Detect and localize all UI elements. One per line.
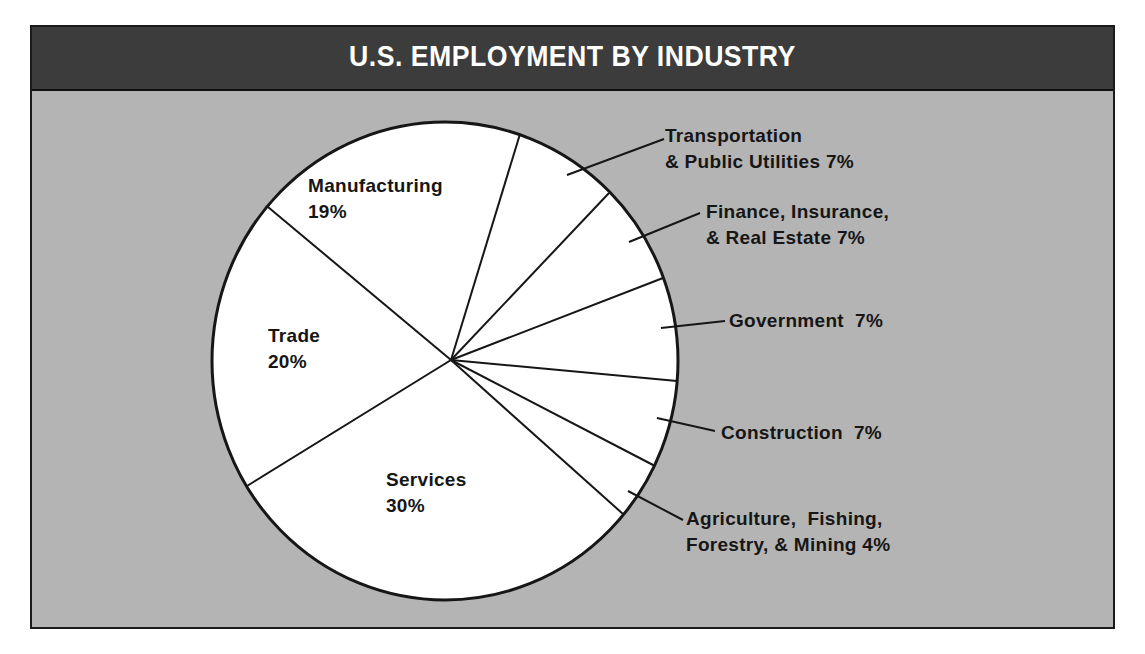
label-government-text: Government 7% <box>729 308 883 334</box>
label-services-value: 30% <box>386 493 467 519</box>
label-manufacturing-value: 19% <box>308 199 443 225</box>
label-agriculture-value: Forestry, & Mining 4% <box>686 532 890 558</box>
label-agriculture: Agriculture, Fishing, Forestry, & Mining… <box>686 506 890 558</box>
label-trade: Trade 20% <box>268 323 320 375</box>
label-transportation: Transportation & Public Utilities 7% <box>665 123 854 175</box>
label-construction: Construction 7% <box>721 420 882 446</box>
label-agriculture-name: Agriculture, Fishing, <box>686 506 890 532</box>
label-trade-name: Trade <box>268 323 320 349</box>
label-finance-value: & Real Estate 7% <box>706 225 889 251</box>
label-services: Services 30% <box>386 467 467 519</box>
label-services-name: Services <box>386 467 467 493</box>
leader-agriculture <box>628 491 683 520</box>
label-transportation-name: Transportation <box>665 123 854 149</box>
pie-chart <box>0 0 1145 654</box>
label-finance: Finance, Insurance, & Real Estate 7% <box>706 199 889 251</box>
label-manufacturing: Manufacturing 19% <box>308 173 443 225</box>
label-trade-value: 20% <box>268 349 320 375</box>
label-transportation-value: & Public Utilities 7% <box>665 149 854 175</box>
leader-transportation <box>567 139 664 175</box>
label-government: Government 7% <box>729 308 883 334</box>
label-finance-name: Finance, Insurance, <box>706 199 889 225</box>
label-construction-text: Construction 7% <box>721 420 882 446</box>
label-manufacturing-name: Manufacturing <box>308 173 443 199</box>
